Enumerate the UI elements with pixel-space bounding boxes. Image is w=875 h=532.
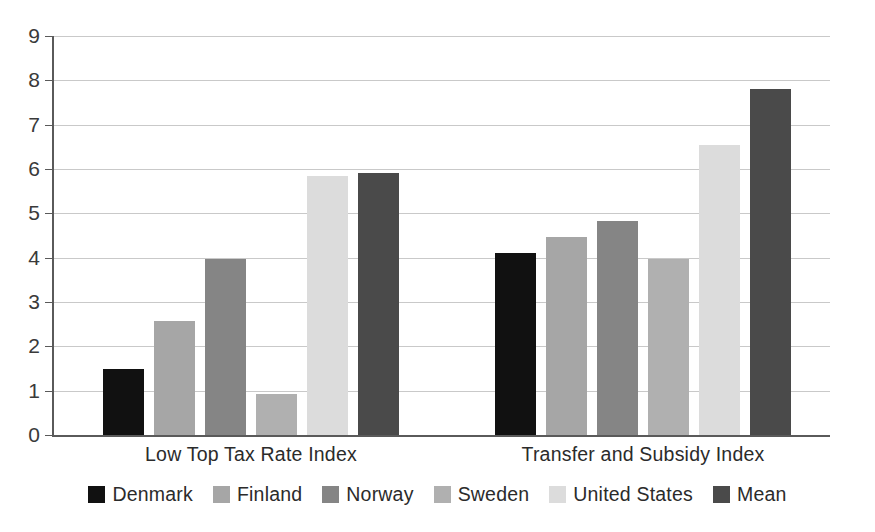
bar xyxy=(750,89,791,435)
legend-item: Sweden xyxy=(434,484,530,505)
legend-label: United States xyxy=(573,484,693,505)
bar xyxy=(205,259,246,435)
y-axis-labels: 0123456789 xyxy=(0,36,40,436)
bar xyxy=(597,221,638,435)
legend-label: Mean xyxy=(737,484,787,505)
bar-chart: 0123456789 Low Top Tax Rate IndexTransfe… xyxy=(0,0,875,532)
y-tick-label: 7 xyxy=(4,114,40,135)
x-axis-category-label: Transfer and Subsidy Index xyxy=(435,443,851,465)
bar xyxy=(256,394,297,435)
legend-item: Mean xyxy=(713,484,787,505)
y-tick-label: 1 xyxy=(4,380,40,401)
bar xyxy=(307,176,348,435)
y-tick-label: 5 xyxy=(4,202,40,223)
bar xyxy=(495,253,536,435)
y-tick-mark xyxy=(45,125,52,126)
y-tick-mark xyxy=(45,213,52,214)
y-tick-mark xyxy=(45,435,52,436)
y-tick-label: 4 xyxy=(4,247,40,268)
legend-label: Norway xyxy=(346,484,413,505)
legend-swatch-icon xyxy=(434,486,451,503)
y-tick-mark xyxy=(45,80,52,81)
bar xyxy=(154,321,195,435)
y-tick-label: 9 xyxy=(4,25,40,46)
legend-item: United States xyxy=(549,484,693,505)
chart-legend: DenmarkFinlandNorwaySwedenUnited StatesM… xyxy=(0,484,875,505)
x-axis-category-label: Low Top Tax Rate Index xyxy=(43,443,459,465)
y-tick-label: 8 xyxy=(4,69,40,90)
bars-layer xyxy=(52,36,830,435)
y-tick-label: 6 xyxy=(4,158,40,179)
legend-swatch-icon xyxy=(713,486,730,503)
legend-item: Norway xyxy=(322,484,413,505)
y-tick-label: 2 xyxy=(4,335,40,356)
y-tick-mark xyxy=(45,346,52,347)
y-tick-mark xyxy=(45,258,52,259)
bar xyxy=(546,237,587,435)
y-tick-label: 0 xyxy=(4,424,40,445)
legend-label: Sweden xyxy=(458,484,530,505)
y-tick-mark xyxy=(45,302,52,303)
bar xyxy=(358,173,399,435)
y-tick-label: 3 xyxy=(4,291,40,312)
bar xyxy=(103,369,144,436)
legend-swatch-icon xyxy=(88,486,105,503)
bar xyxy=(648,259,689,435)
legend-swatch-icon xyxy=(213,486,230,503)
legend-item: Finland xyxy=(213,484,302,505)
legend-label: Denmark xyxy=(112,484,193,505)
bar xyxy=(699,145,740,435)
x-axis-baseline xyxy=(52,435,830,437)
legend-item: Denmark xyxy=(88,484,193,505)
legend-swatch-icon xyxy=(549,486,566,503)
legend-label: Finland xyxy=(237,484,302,505)
y-tick-mark xyxy=(45,169,52,170)
y-tick-mark xyxy=(45,36,52,37)
y-tick-mark xyxy=(45,391,52,392)
legend-swatch-icon xyxy=(322,486,339,503)
